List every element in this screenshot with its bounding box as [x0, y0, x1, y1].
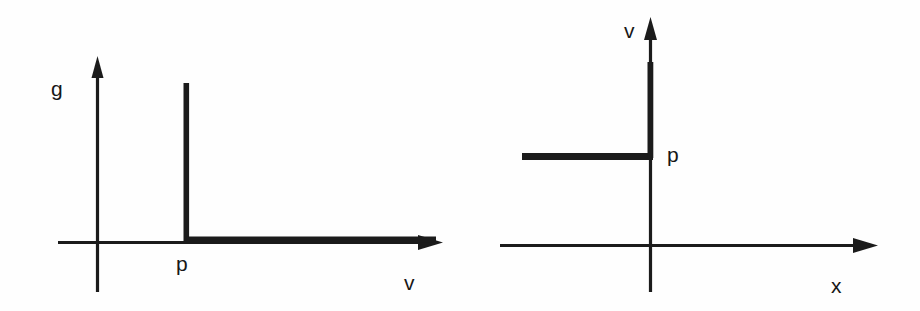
right-plot-drawing [460, 0, 920, 311]
left-impulse-point-label: p [176, 253, 188, 274]
figure-container: g v p v x p [0, 0, 920, 311]
right-y-axis-label: v [624, 20, 635, 41]
right-x-axis-arrowhead-icon [853, 238, 878, 253]
step-jump [648, 62, 654, 158]
left-impulse-trace [184, 83, 437, 243]
impulse-spike [184, 83, 190, 242]
plot-panel-right: v x p [460, 0, 920, 311]
right-step-trace [522, 62, 653, 160]
right-x-axis [500, 238, 878, 253]
left-y-axis-label: g [51, 78, 63, 99]
left-plot-drawing [0, 0, 460, 311]
left-y-axis [92, 56, 104, 292]
right-x-axis-label: x [831, 275, 842, 296]
right-y-axis-arrowhead-icon [644, 17, 657, 40]
plot-panel-left: g v p [0, 0, 460, 311]
impulse-baseline [186, 237, 436, 243]
right-step-point-label: p [667, 144, 679, 165]
left-x-axis-label: v [404, 272, 415, 293]
step-plateau [522, 153, 653, 160]
left-y-axis-arrowhead-icon [92, 56, 104, 78]
